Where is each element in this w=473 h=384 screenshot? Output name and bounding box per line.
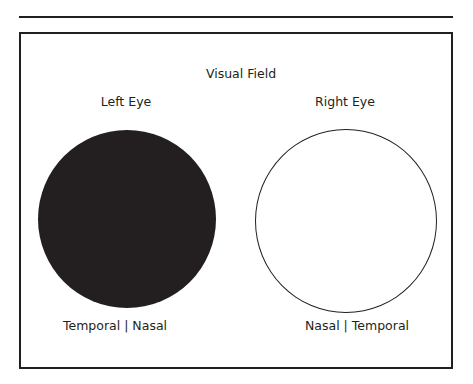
right-eye-label: Right Eye — [315, 96, 375, 109]
left-eye-visual-field-circle — [38, 130, 216, 308]
right-eye-axis-label: Nasal | Temporal — [305, 320, 409, 333]
left-eye-axis-label: Temporal | Nasal — [63, 320, 167, 333]
top-divider-rule — [19, 16, 453, 18]
diagram-title: Visual Field — [206, 68, 276, 81]
right-eye-visual-field-circle — [255, 129, 437, 313]
left-eye-label: Left Eye — [101, 96, 151, 109]
